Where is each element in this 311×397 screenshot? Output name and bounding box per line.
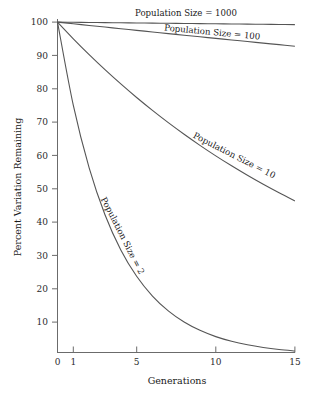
x-tick-label-5: 5 xyxy=(134,357,140,367)
chart-container: 10 20 30 40 50 60 70 80 90 100 0 1 5 10 … xyxy=(0,0,311,397)
y-tick-label-60: 60 xyxy=(37,151,49,161)
variation-decay-line-chart: 10 20 30 40 50 60 70 80 90 100 0 1 5 10 … xyxy=(0,0,311,397)
y-tick-label-80: 80 xyxy=(37,84,49,94)
x-axis-title: Generations xyxy=(148,375,207,386)
y-tick-label-30: 30 xyxy=(37,251,49,261)
x-tick-label-1: 1 xyxy=(70,357,76,367)
y-tick-label-100: 100 xyxy=(31,17,48,27)
series-label-1000: Population Size = 1000 xyxy=(135,8,237,18)
y-tick-label-10: 10 xyxy=(37,317,49,327)
y-tick-label-20: 20 xyxy=(37,284,49,294)
x-tick-label-0: 0 xyxy=(55,357,61,367)
y-tick-label-40: 40 xyxy=(37,217,49,227)
x-tick-label-10: 10 xyxy=(210,357,222,367)
y-tick-label-90: 90 xyxy=(37,51,49,61)
y-tick-label-50: 50 xyxy=(37,184,49,194)
y-tick-label-70: 70 xyxy=(37,117,49,127)
y-axis-title: Percent Variation Remaining xyxy=(12,118,23,256)
x-tick-label-15: 15 xyxy=(289,357,301,367)
